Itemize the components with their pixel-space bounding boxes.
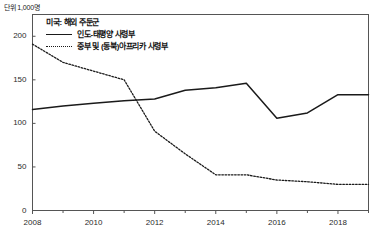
- y-axis-tick-label: 150: [0, 75, 27, 84]
- x-axis-tick-label: 2012: [135, 218, 175, 227]
- x-axis-tick-label: 2008: [13, 218, 53, 227]
- y-axis-tick-label: 200: [0, 31, 27, 40]
- y-axis-tick-label: 100: [0, 118, 27, 127]
- y-axis-tick-label: 50: [0, 162, 27, 171]
- legend-item-indo-pacific: 인도-태평양 사령부: [46, 30, 168, 40]
- legend-item-central-africa: 중부 및 (동북)아프리카 사령부: [46, 42, 168, 52]
- x-axis-tick-label: 2010: [74, 218, 114, 227]
- x-axis-tick-label: 2014: [196, 218, 236, 227]
- x-axis-tick-label: 2018: [318, 218, 358, 227]
- legend-line-swatch-solid: [46, 31, 72, 39]
- x-axis-ticks: [33, 211, 369, 215]
- legend-title: 미국: 해외 주둔군: [46, 18, 168, 28]
- chart-container: 단위 1,000명 미국: 해외 주둔군 인도-태평양 사령부 중부 및 (동북…: [0, 0, 374, 238]
- legend-line-swatch-dotted: [46, 43, 72, 51]
- x-axis-tick-label: 2016: [257, 218, 297, 227]
- legend-item-label: 중부 및 (동북)아프리카 사령부: [77, 42, 168, 52]
- chart-legend: 미국: 해외 주둔군 인도-태평양 사령부 중부 및 (동북)아프리카 사령부: [46, 18, 168, 52]
- legend-item-label: 인도-태평양 사령부: [77, 30, 135, 40]
- y-axis-tick-label: 0: [0, 206, 27, 215]
